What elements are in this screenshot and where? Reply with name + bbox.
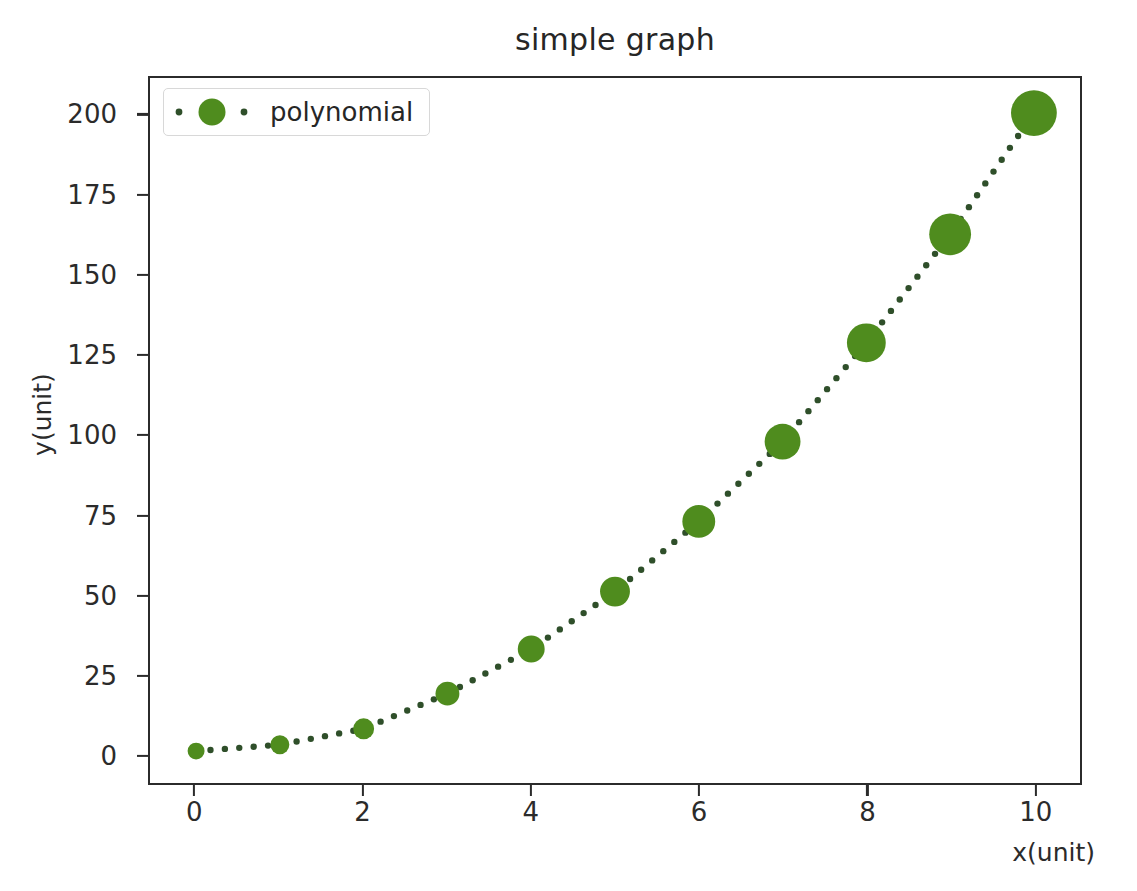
y-tick-mark — [137, 274, 148, 276]
y-tick-mark — [137, 514, 148, 516]
x-tick-mark — [361, 785, 363, 796]
y-tick-mark — [137, 675, 148, 677]
x-tick-mark — [866, 785, 868, 796]
y-tick-label: 25 — [27, 661, 117, 691]
x-tick-label: 10 — [1006, 797, 1066, 827]
y-tick-mark — [137, 434, 148, 436]
y-axis-label: y(unit) — [28, 355, 57, 475]
y-tick-mark — [137, 194, 148, 196]
data-point — [518, 636, 545, 663]
y-tick-label: 100 — [27, 420, 117, 450]
chart-legend: polynomial — [163, 88, 430, 136]
x-tick-label: 8 — [837, 797, 897, 827]
y-tick-label: 175 — [27, 180, 117, 210]
x-tick-mark — [1035, 785, 1037, 796]
plot-svg — [150, 78, 1080, 783]
data-point — [353, 718, 374, 739]
x-tick-mark — [698, 785, 700, 796]
y-tick-mark — [137, 113, 148, 115]
x-tick-mark — [530, 785, 532, 796]
y-tick-mark — [137, 595, 148, 597]
data-point — [929, 213, 971, 255]
series-line — [193, 121, 1030, 754]
data-point — [435, 682, 459, 706]
x-axis-label: x(unit) — [0, 838, 1095, 867]
legend-marker-sample — [174, 97, 250, 127]
x-tick-mark — [193, 785, 195, 796]
y-tick-label: 125 — [27, 340, 117, 370]
plot-area — [148, 76, 1082, 785]
y-tick-label: 50 — [27, 581, 117, 611]
x-tick-label: 4 — [501, 797, 561, 827]
y-tick-label: 0 — [27, 741, 117, 771]
data-point — [765, 424, 801, 460]
x-tick-label: 6 — [669, 797, 729, 827]
data-point — [847, 323, 886, 362]
chart-figure: simple graph y(unit) x(unit) 02550751001… — [0, 0, 1137, 891]
data-point — [1011, 90, 1057, 136]
data-point — [600, 577, 630, 607]
data-point — [270, 735, 289, 754]
chart-title: simple graph — [148, 22, 1082, 57]
y-tick-label: 150 — [27, 260, 117, 290]
y-tick-mark — [137, 354, 148, 356]
y-tick-mark — [137, 755, 148, 757]
y-tick-label: 200 — [27, 99, 117, 129]
data-point — [682, 505, 715, 538]
y-tick-label: 75 — [27, 501, 117, 531]
data-point — [188, 743, 205, 760]
series-markers — [188, 90, 1057, 759]
legend-label: polynomial — [270, 97, 413, 127]
x-tick-label: 2 — [333, 797, 393, 827]
x-tick-label: 0 — [164, 797, 224, 827]
